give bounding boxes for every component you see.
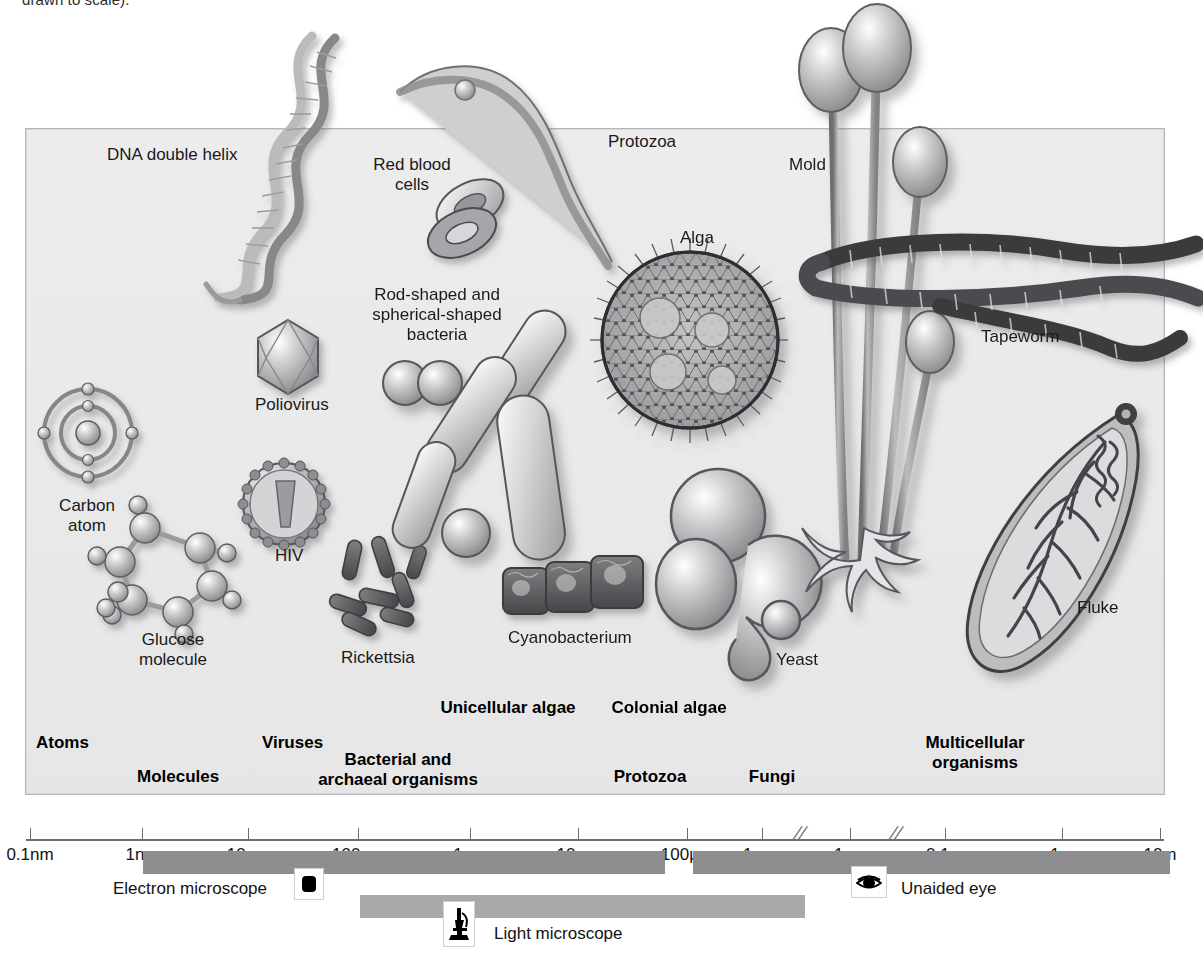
- label-fluke: Fluke: [1077, 598, 1119, 618]
- category-atoms: Atoms: [36, 733, 89, 753]
- axis-tick-label: 0.1nm: [6, 845, 53, 865]
- label-glucose-molecule: Glucose molecule: [139, 630, 207, 670]
- range-bar-unaided-eye: [693, 851, 1170, 874]
- range-label-unaided-eye: Unaided eye: [901, 879, 996, 899]
- label-hiv: HIV: [275, 546, 303, 566]
- label-red-blood-cells: Red blood cells: [373, 155, 451, 195]
- category-viruses: Viruses: [262, 733, 323, 753]
- axis-tick: [578, 828, 579, 840]
- label-alga: Alga: [680, 228, 714, 248]
- axis-tick: [358, 828, 359, 840]
- axis-tick: [687, 828, 688, 840]
- scale-panel: [25, 128, 1165, 795]
- axis-tick: [1160, 828, 1161, 840]
- figure-caption-fragment: drawn to scale).: [22, 0, 129, 8]
- label-cyanobacterium: Cyanobacterium: [508, 628, 632, 648]
- axis-tick: [1062, 828, 1063, 840]
- electron-microscope-icon: [294, 868, 324, 900]
- axis-tick: [470, 828, 471, 840]
- label-protozoa: Protozoa: [608, 132, 676, 152]
- category-unicellular-algae: Unicellular algae: [440, 698, 575, 718]
- range-bar-light-microscope: [360, 895, 805, 918]
- axis-line: [26, 839, 1164, 841]
- range-label-light-microscope: Light microscope: [494, 924, 623, 944]
- label-carbon-atom: Carbon atom: [59, 496, 115, 536]
- label-mold: Mold: [789, 155, 826, 175]
- category-multicellular-organisms: Multicellular organisms: [925, 733, 1024, 773]
- light-microscope-icon: [443, 901, 475, 947]
- category-colonial-algae: Colonial algae: [611, 698, 726, 718]
- range-bar-electron-microscope: [143, 851, 665, 874]
- label-poliovirus: Poliovirus: [255, 395, 329, 415]
- eye-icon: [851, 866, 887, 898]
- axis-tick: [945, 828, 946, 840]
- label-rickettsia: Rickettsia: [341, 648, 415, 668]
- category-fungi: Fungi: [749, 767, 795, 787]
- label-rod-and-spherical-bacteria: Rod-shaped and spherical-shaped bacteria: [372, 285, 501, 345]
- axis-tick: [142, 828, 143, 840]
- axis-tick: [30, 828, 31, 840]
- label-tapeworm: Tapeworm: [981, 327, 1059, 347]
- label-dna-double-helix: DNA double helix: [107, 145, 237, 165]
- category-protozoa-category: Protozoa: [614, 767, 687, 787]
- axis-tick: [248, 828, 249, 840]
- category-molecules: Molecules: [137, 767, 219, 787]
- axis-tick: [850, 828, 851, 840]
- axis-tick: [762, 828, 763, 840]
- label-yeast: Yeast: [776, 650, 818, 670]
- category-bacterial-and-archaeal-organisms: Bacterial and archaeal organisms: [318, 750, 478, 790]
- range-label-electron-microscope: Electron microscope: [113, 879, 267, 899]
